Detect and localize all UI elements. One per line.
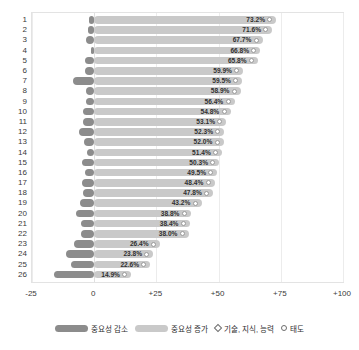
legend-item[interactable]: 중요성 감소 xyxy=(55,323,128,334)
row-category-label: 21 xyxy=(3,219,27,229)
plot-area: 73.2%171.6%267.7%366.8%465.8%559.9%659.5… xyxy=(31,12,344,283)
legend-swatch-decrease xyxy=(55,325,88,332)
legend-swatch-increase xyxy=(135,325,168,332)
marker-circle-icon xyxy=(182,211,187,216)
row-category-label: 16 xyxy=(3,168,27,178)
row-category-label: 20 xyxy=(3,209,27,219)
bar-decrease xyxy=(83,118,94,126)
circle-icon xyxy=(281,325,287,331)
bar-value-label: 38.0% xyxy=(159,229,178,239)
bar-row: 47.8%18 xyxy=(32,188,343,198)
bar-value-label: 59.5% xyxy=(212,76,231,86)
bar-row: 43.2%19 xyxy=(32,198,343,208)
bar-row: 49.5%16 xyxy=(32,168,343,178)
row-category-label: 13 xyxy=(3,137,27,147)
row-category-label: 23 xyxy=(3,239,27,249)
bar-value-label: 65.8% xyxy=(228,56,247,66)
x-tick-label: +75 xyxy=(273,289,287,298)
row-category-label: 18 xyxy=(3,188,27,198)
bar-value-label: 47.8% xyxy=(183,188,202,198)
bar-value-label: 22.6% xyxy=(120,260,139,270)
bar-row: 65.8%5 xyxy=(32,56,343,66)
row-category-label: 15 xyxy=(3,158,27,168)
row-category-label: 3 xyxy=(3,35,27,45)
x-tick-label: +25 xyxy=(149,289,163,298)
row-category-label: 8 xyxy=(3,86,27,96)
bar-value-label: 14.9% xyxy=(101,270,120,280)
row-category-label: 19 xyxy=(3,198,27,208)
gridline-100 xyxy=(343,13,344,282)
bar-value-label: 52.0% xyxy=(194,137,213,147)
bar-decrease xyxy=(87,149,94,157)
bar-row: 59.5%7 xyxy=(32,76,343,86)
bar-value-label: 38.8% xyxy=(161,209,180,219)
row-category-label: 1 xyxy=(3,15,27,25)
marker-circle-icon xyxy=(232,89,237,94)
diamond-icon xyxy=(214,324,222,332)
bar-row: 52.3%12 xyxy=(32,127,343,137)
row-category-label: 12 xyxy=(3,127,27,137)
row-category-label: 14 xyxy=(3,148,27,158)
legend-label: 기술, 지식, 능력 xyxy=(224,323,274,334)
diverging-bar-chart: 73.2%171.6%267.7%366.8%465.8%559.9%659.5… xyxy=(0,0,359,350)
bar-decrease xyxy=(82,159,95,167)
bar-row: 56.4%9 xyxy=(32,97,343,107)
bar-value-label: 23.8% xyxy=(123,249,142,259)
marker-circle-icon xyxy=(213,150,218,155)
bar-row: 38.0%22 xyxy=(32,229,343,239)
x-tick-label: +50 xyxy=(211,289,225,298)
bar-decrease xyxy=(86,36,94,44)
legend-item[interactable]: 기술, 지식, 능력 xyxy=(215,323,274,334)
bar-decrease xyxy=(73,77,94,85)
legend-label: 태도 xyxy=(290,323,304,334)
row-category-label: 5 xyxy=(3,56,27,66)
bar-decrease xyxy=(76,210,94,218)
x-tick-label: +100 xyxy=(333,289,351,298)
marker-circle-icon xyxy=(226,99,231,104)
row-category-label: 17 xyxy=(3,178,27,188)
bar-decrease xyxy=(80,199,94,207)
bar-row: 51.4%14 xyxy=(32,148,343,158)
bar-decrease xyxy=(81,220,94,228)
bar-value-label: 54.8% xyxy=(201,107,220,117)
marker-circle-icon xyxy=(249,58,254,63)
marker-circle-icon xyxy=(254,38,259,43)
legend-item[interactable]: 중요성 증가 xyxy=(135,323,208,334)
legend-label: 중요성 감소 xyxy=(91,323,128,334)
bar-row: 38.4%21 xyxy=(32,219,343,229)
bar-value-label: 51.4% xyxy=(192,148,211,158)
row-category-label: 2 xyxy=(3,25,27,35)
bar-decrease xyxy=(54,271,94,279)
bar-decrease xyxy=(85,169,94,177)
bar-value-label: 48.4% xyxy=(185,178,204,188)
row-category-label: 4 xyxy=(3,46,27,56)
bar-decrease xyxy=(81,230,94,238)
bar-row: 48.4%17 xyxy=(32,178,343,188)
bar-decrease xyxy=(86,98,94,106)
legend-item[interactable]: 태도 xyxy=(281,323,304,334)
bar-row: 71.6%2 xyxy=(32,25,343,35)
bar-decrease xyxy=(83,189,94,197)
bar-decrease xyxy=(66,250,94,258)
bar-row: 23.8%24 xyxy=(32,249,343,259)
bar-value-label: 43.2% xyxy=(172,198,191,208)
row-category-label: 6 xyxy=(3,66,27,76)
bar-decrease xyxy=(74,240,94,248)
x-tick-label: -25 xyxy=(25,289,37,298)
bar-decrease xyxy=(82,179,94,187)
x-tick-label: 0 xyxy=(91,289,95,298)
marker-circle-icon xyxy=(222,109,227,114)
bar-decrease xyxy=(71,261,94,269)
marker-circle-icon xyxy=(181,221,186,226)
bar-decrease xyxy=(86,87,94,95)
x-axis: -250+25+50+75+100 xyxy=(31,285,344,303)
bar-row: 54.8%10 xyxy=(32,107,343,117)
bar-value-label: 38.4% xyxy=(160,219,179,229)
row-category-label: 11 xyxy=(3,117,27,127)
marker-circle-icon xyxy=(215,140,220,145)
bar-value-label: 56.4% xyxy=(205,97,224,107)
bar-decrease xyxy=(85,67,94,75)
bar-rows: 73.2%171.6%267.7%366.8%465.8%559.9%659.5… xyxy=(32,13,343,282)
bar-value-label: 50.3% xyxy=(189,158,208,168)
bar-value-label: 49.5% xyxy=(187,168,206,178)
